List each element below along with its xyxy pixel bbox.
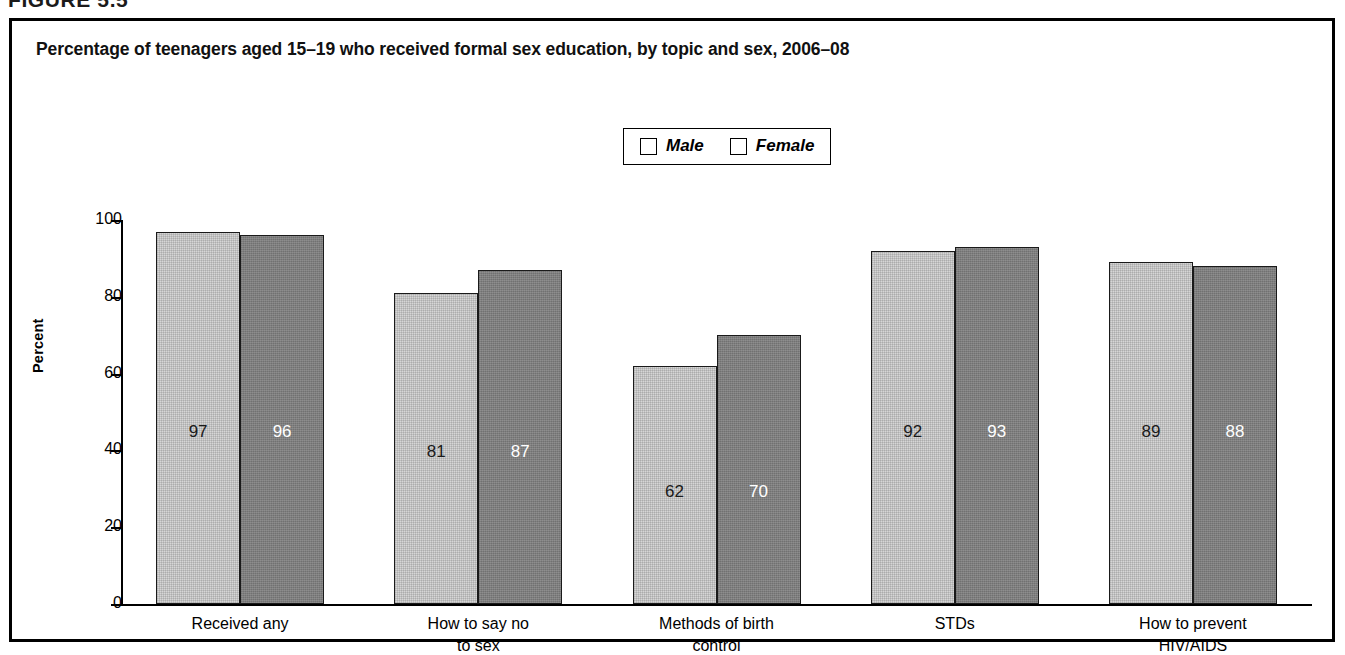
- y-axis-title: Percent: [30, 318, 46, 373]
- bar-male[interactable]: 89: [1109, 262, 1193, 604]
- x-axis-label: How to prevent HIV/AIDS: [1074, 613, 1312, 655]
- bar-group: 9293: [871, 220, 1039, 604]
- bar-female[interactable]: 88: [1193, 266, 1277, 604]
- bar-female[interactable]: 93: [955, 247, 1039, 604]
- bar-female[interactable]: 70: [717, 335, 801, 604]
- bar-value-label: 93: [956, 423, 1038, 440]
- bar-male[interactable]: 81: [394, 293, 478, 604]
- y-tick-label: 40: [80, 440, 122, 458]
- bar-value-label: 87: [479, 443, 561, 460]
- x-axis-label: Methods of birth control: [597, 613, 835, 655]
- y-tick-label: 60: [80, 364, 122, 382]
- bar-group: 8187: [394, 220, 562, 604]
- bar-female[interactable]: 96: [240, 235, 324, 604]
- bar-value-label: 81: [395, 443, 477, 460]
- bar-female[interactable]: 87: [478, 270, 562, 604]
- x-axis-line: [121, 604, 1312, 606]
- x-axis-category-labels: Received anyHow to say no to sexMethods …: [121, 613, 1312, 655]
- y-tick-label: 0: [80, 594, 122, 612]
- y-tick-label: 20: [80, 517, 122, 535]
- bar-value-label: 96: [241, 423, 323, 440]
- bar-group: 8988: [1109, 220, 1277, 604]
- y-tick-label: 100: [80, 210, 122, 228]
- bar-value-label: 88: [1194, 423, 1276, 440]
- bar-value-label: 89: [1110, 423, 1192, 440]
- plot-area: Percent 100806040200 9796818762709293898…: [12, 21, 1332, 639]
- bar-value-label: 97: [157, 423, 239, 440]
- bar-male[interactable]: 62: [633, 366, 717, 604]
- bar-male[interactable]: 97: [156, 232, 240, 604]
- x-axis-label: Received any: [121, 613, 359, 635]
- bar-groups-container: 97968187627092938988: [121, 220, 1312, 604]
- figure-frame: Percentage of teenagers aged 15–19 who r…: [9, 18, 1335, 642]
- bar-value-label: 70: [718, 483, 800, 500]
- bar-male[interactable]: 92: [871, 251, 955, 604]
- y-tick-label: 80: [80, 287, 122, 305]
- bar-value-label: 92: [872, 423, 954, 440]
- x-axis-label: How to say no to sex: [359, 613, 597, 655]
- bar-group: 6270: [633, 220, 801, 604]
- bar-value-label: 62: [634, 483, 716, 500]
- figure-number-label: FIGURE 5.5: [8, 0, 128, 12]
- x-axis-label: STDs: [836, 613, 1074, 635]
- bar-group: 9796: [156, 220, 324, 604]
